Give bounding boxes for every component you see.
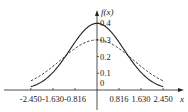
x-tick-label: 1.630 <box>131 94 150 104</box>
y-tick-label: 0.3 <box>100 35 111 45</box>
x-axis-label: x <box>179 94 184 104</box>
x-axis-arrow-icon <box>178 88 184 92</box>
x-tick-label: -1.630 <box>42 94 64 104</box>
x-tick-label: 2.450 <box>154 94 173 104</box>
y-tick-label: 0.1 <box>100 68 111 78</box>
y-tick-labels: 00.10.20.30.4 <box>97 18 111 88</box>
chart: -2.450-1.630-0.8160.8161.6302.450 00.10.… <box>0 0 188 112</box>
y-tick-label: 0 <box>100 78 104 88</box>
y-axis-label: f(x) <box>101 7 114 17</box>
x-tick-label: 0.816 <box>109 94 128 104</box>
y-axis-arrow-icon <box>95 10 99 16</box>
y-tick-label: 0.2 <box>100 52 111 62</box>
x-tick-label: -2.450 <box>20 94 42 104</box>
x-tick-label: -0.816 <box>64 94 86 104</box>
y-tick-label: 0.4 <box>100 18 111 28</box>
